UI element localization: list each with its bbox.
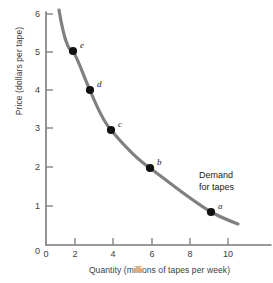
chart-canvas xyxy=(0,0,273,283)
point-label-b: b xyxy=(157,158,162,167)
y-tick-label-3: 3 xyxy=(26,124,40,133)
x-axis-ticks xyxy=(75,238,228,245)
y-tick-label-2: 2 xyxy=(26,163,40,172)
annotation-line-1: Demand xyxy=(199,169,234,181)
point-label-c: c xyxy=(118,120,122,129)
x-tick-label-6: 6 xyxy=(144,250,160,259)
data-point-markers xyxy=(69,47,215,216)
data-point-a xyxy=(207,208,215,216)
x-tick-label-10: 10 xyxy=(220,250,236,259)
x-tick-label-2: 2 xyxy=(67,250,83,259)
annotation-line-2: for tapes xyxy=(199,181,234,193)
data-point-c xyxy=(107,126,115,134)
data-point-e xyxy=(69,47,77,55)
point-label-d: d xyxy=(97,80,102,89)
demand-curve-annotation: Demand for tapes xyxy=(199,169,234,193)
x-axis-title: Quantity (millions of tapes per week) xyxy=(46,265,273,275)
y-tick-label-5: 5 xyxy=(26,48,40,57)
y-tick-label-6: 6 xyxy=(26,10,40,19)
x-tick-label-0: 0 xyxy=(38,250,54,259)
data-point-b xyxy=(146,164,154,172)
y-tick-label-1: 1 xyxy=(26,202,40,211)
data-point-d xyxy=(86,86,94,94)
x-tick-label-4: 4 xyxy=(105,250,121,259)
y-axis-ticks xyxy=(46,14,53,206)
point-label-e: e xyxy=(80,41,84,50)
demand-curve-figure: 6 5 4 3 2 1 0 0 2 4 6 8 10 Price (dollar… xyxy=(0,0,273,283)
y-axis-title: Price (dollars per tape) xyxy=(14,6,24,136)
point-label-a: a xyxy=(218,202,223,211)
x-tick-label-8: 8 xyxy=(182,250,198,259)
y-tick-label-4: 4 xyxy=(26,86,40,95)
